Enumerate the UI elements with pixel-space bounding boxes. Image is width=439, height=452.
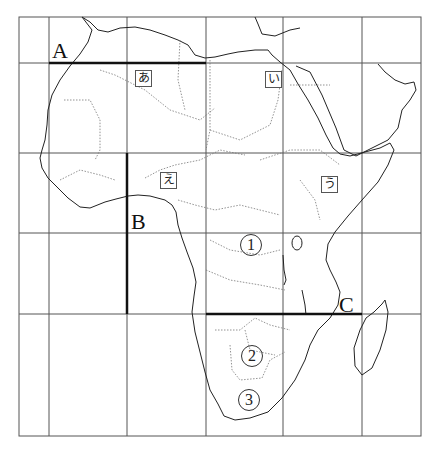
region-label-e: え [160,172,177,189]
numbered-label-1: 1 [240,234,262,256]
region-label-i: い [265,71,282,88]
coastline [40,17,416,420]
label-b: B [131,211,146,233]
africa-map [0,0,439,452]
label-a: A [52,40,68,62]
numbered-label-2: 2 [241,345,263,367]
country-borders [60,40,340,380]
numbered-label-3: 3 [238,389,260,411]
label-c: C [339,294,354,316]
region-label-a: あ [135,70,152,87]
region-label-u: う [321,176,338,193]
